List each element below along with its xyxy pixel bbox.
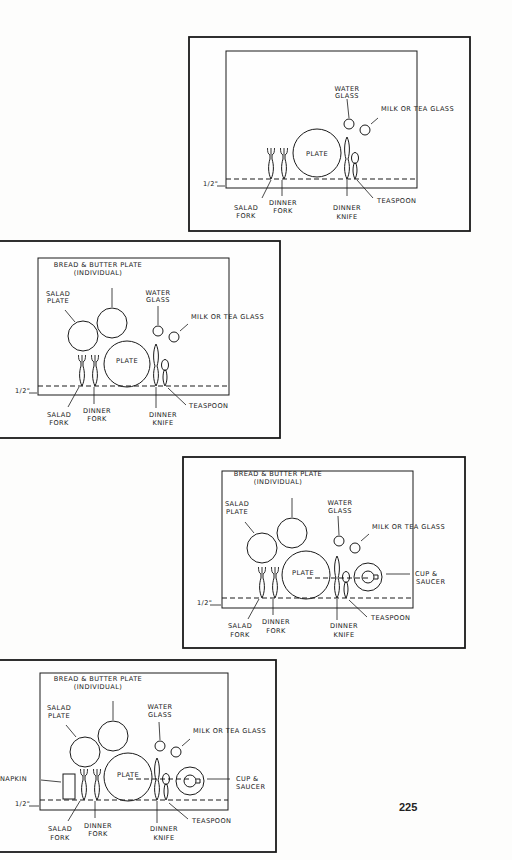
dinner-fork-label: DINNER: [84, 822, 112, 830]
napkin-label: NAPKIN: [0, 775, 27, 783]
bread-plate-label: BREAD & BUTTER PLATE: [234, 470, 322, 478]
bread-plate-label: BREAD & BUTTER PLATE: [54, 675, 142, 683]
diagram-cup-saucer-setting: PLATE BREAD & BUTTER PLATE (INDIVIDUAL) …: [183, 457, 465, 648]
cup-saucer-label: CUP &: [236, 775, 259, 783]
svg-text:FORK: FORK: [87, 415, 107, 423]
dinner-fork-label: DINNER: [83, 407, 111, 415]
teaspoon-label: TEASPOON: [370, 614, 410, 622]
plate-label: PLATE: [116, 357, 138, 365]
svg-text:FORK: FORK: [50, 834, 70, 842]
teaspoon-label: TEASPOON: [191, 817, 231, 825]
svg-text:SAUCER: SAUCER: [236, 783, 265, 791]
diagram-salad-bread-setting: PLATE BREAD & BUTTER PLATE (INDIVIDUAL) …: [0, 241, 280, 438]
dinner-fork-label: DINNER: [269, 199, 297, 207]
dinner-fork-label: DINNER: [262, 618, 290, 626]
diagram-frame: [183, 457, 465, 648]
dinner-knife-label: DINNER: [150, 825, 178, 833]
svg-text:GLASS: GLASS: [146, 296, 170, 304]
svg-text:FORK: FORK: [273, 207, 293, 215]
svg-text:FORK: FORK: [230, 631, 250, 639]
margin-label: 1/2": [203, 180, 218, 188]
milk-glass-label: MILK OR TEA GLASS: [381, 105, 454, 113]
salad-fork-label: SALAD: [234, 204, 258, 212]
milk-glass-label: MILK OR TEA GLASS: [193, 727, 266, 735]
svg-text:KNIFE: KNIFE: [333, 631, 354, 639]
svg-text:PLATE: PLATE: [47, 297, 69, 305]
svg-text:(INDIVIDUAL): (INDIVIDUAL): [74, 269, 122, 277]
svg-text:FORK: FORK: [266, 627, 286, 635]
teaspoon-label: TEASPOON: [376, 197, 416, 205]
svg-text:PLATE: PLATE: [226, 508, 248, 516]
margin-label: 1/2": [15, 387, 30, 395]
svg-text:GLASS: GLASS: [148, 711, 172, 719]
svg-text:FORK: FORK: [49, 419, 69, 427]
salad-fork-label: SALAD: [228, 622, 252, 630]
svg-text:(INDIVIDUAL): (INDIVIDUAL): [254, 478, 302, 486]
svg-text:FORK: FORK: [236, 212, 256, 220]
svg-text:PLATE: PLATE: [48, 712, 70, 720]
margin-label: 1/2": [15, 800, 30, 808]
svg-text:GLASS: GLASS: [335, 92, 359, 100]
diagram-frame: [0, 660, 276, 852]
salad-plate-label: SALAD: [47, 704, 71, 712]
svg-text:KNIFE: KNIFE: [152, 419, 173, 427]
svg-text:SAUCER: SAUCER: [416, 578, 445, 586]
milk-glass-label: MILK OR TEA GLASS: [372, 523, 445, 531]
water-glass-label: WATER: [148, 703, 173, 711]
teaspoon-label: TEASPOON: [188, 402, 228, 410]
svg-text:(INDIVIDUAL): (INDIVIDUAL): [74, 683, 122, 691]
svg-text:GLASS: GLASS: [328, 507, 352, 515]
svg-text:KNIFE: KNIFE: [153, 834, 174, 842]
diagram-basic-setting: PLATE WATER GLASS MILK OR TEA GLASS SALA…: [189, 37, 470, 231]
dinner-knife-label: DINNER: [149, 411, 177, 419]
milk-glass-label: MILK OR TEA GLASS: [191, 313, 264, 321]
water-glass-label: WATER: [328, 499, 353, 507]
diagram-frame: [189, 37, 470, 231]
bread-plate-label: BREAD & BUTTER PLATE: [54, 261, 142, 269]
plate-label: PLATE: [306, 150, 328, 158]
svg-text:KNIFE: KNIFE: [336, 213, 357, 221]
salad-plate-label: SALAD: [225, 500, 249, 508]
dinner-knife-label: DINNER: [330, 622, 358, 630]
salad-fork-label: SALAD: [47, 411, 71, 419]
dinner-knife-label: DINNER: [333, 204, 361, 212]
plate-label: PLATE: [117, 771, 139, 779]
margin-label: 1/2": [197, 599, 212, 607]
diagram-napkin-setting: PLATE BREAD & BUTTER PLATE (INDIVIDUAL) …: [0, 660, 276, 852]
diagram-frame: [0, 241, 280, 438]
svg-text:FORK: FORK: [88, 830, 108, 838]
salad-fork-label: SALAD: [48, 825, 72, 833]
cup-saucer-label: CUP &: [415, 570, 438, 578]
page-canvas: PLATE WATER GLASS MILK OR TEA GLASS SALA…: [0, 0, 512, 860]
page-number: 225: [399, 801, 417, 813]
plate-label: PLATE: [292, 569, 314, 577]
